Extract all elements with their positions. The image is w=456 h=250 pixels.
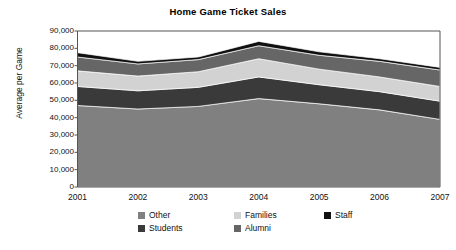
legend-swatch-icon — [234, 225, 241, 232]
legend-item-label: Students — [149, 223, 183, 233]
legend-item[interactable]: Other — [138, 210, 170, 220]
legend-swatch-icon — [234, 212, 241, 219]
chart-container: Home Game Ticket Sales Average per Game … — [0, 0, 456, 250]
legend-swatch-icon — [138, 212, 145, 219]
legend-item-label: Staff — [335, 210, 352, 220]
legend-item[interactable]: Staff — [324, 210, 352, 220]
chart-legend: OtherFamiliesStaffStudentsAlumni — [138, 210, 438, 242]
legend-swatch-icon — [324, 212, 331, 219]
legend-item-label: Families — [245, 210, 277, 220]
legend-swatch-icon — [138, 225, 145, 232]
legend-item[interactable]: Students — [138, 223, 183, 233]
area-series-other — [78, 99, 441, 187]
legend-item[interactable]: Families — [234, 210, 277, 220]
legend-item-label: Other — [149, 210, 170, 220]
legend-item[interactable]: Alumni — [234, 223, 271, 233]
legend-item-label: Alumni — [245, 223, 271, 233]
